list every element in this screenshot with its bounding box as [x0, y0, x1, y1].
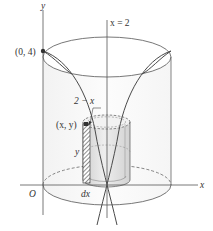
- point-0-4-label: (0, 4): [15, 47, 36, 58]
- point-0-4: [41, 49, 45, 53]
- point-x-y: [84, 122, 88, 126]
- radius-label: 2 − x: [74, 96, 95, 106]
- thickness-label: dx: [81, 189, 91, 199]
- height-label: y: [74, 147, 80, 157]
- point-x-y-label: (x, y): [56, 120, 77, 131]
- origin-label: O: [29, 189, 36, 199]
- y-axis-label: y: [40, 1, 46, 11]
- x-axis-label: x: [199, 180, 205, 190]
- hatched-strip: [83, 124, 90, 183]
- shell-method-diagram: y x O x = 2 (0, 4) (x, y) 2 − x y dx: [0, 0, 213, 231]
- axis-of-rotation-label: x = 2: [110, 18, 130, 28]
